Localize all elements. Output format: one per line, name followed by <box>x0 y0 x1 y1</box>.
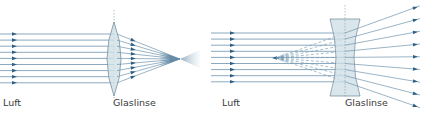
arrow-head-icon <box>230 31 235 35</box>
lens-label: Glaslinse <box>345 97 388 108</box>
medium-label: Luft <box>3 97 21 108</box>
arrow-head-icon <box>413 43 418 47</box>
arrow-head-icon <box>413 31 418 35</box>
arrow-head-icon <box>12 51 17 55</box>
focal-point <box>160 50 200 68</box>
lens-diagram: Luft Glaslinse Luft Glaslinse <box>0 0 422 116</box>
arrow-head-icon <box>12 44 17 48</box>
arrow-head-icon <box>230 50 235 54</box>
arrow-head-icon <box>131 61 136 65</box>
arrow-head-icon <box>230 56 235 60</box>
arrow-head-icon <box>413 55 418 59</box>
arrow-head-icon <box>413 79 418 83</box>
diverging-lens-diagram: Luft Glaslinse <box>211 5 420 108</box>
arrow-head-icon <box>12 75 17 79</box>
refracted-ray <box>345 44 420 51</box>
arrow-head-icon <box>12 38 17 42</box>
arrow-head-icon <box>131 66 136 70</box>
arrow-head-icon <box>230 80 235 84</box>
arrow-head-icon <box>131 57 136 61</box>
incoming-rays <box>0 32 114 84</box>
convex-lens-shape <box>107 22 121 96</box>
arrow-head-icon <box>130 76 135 79</box>
arrow-head-icon <box>12 69 17 73</box>
converging-lens-diagram: Luft Glaslinse <box>0 10 200 108</box>
convex-lens <box>107 10 121 98</box>
arrow-head-icon <box>230 74 235 78</box>
focus-cone-out <box>180 50 200 68</box>
arrow-head-icon <box>130 38 135 42</box>
arrow-head-icon <box>413 91 418 94</box>
arrow-head-icon <box>12 57 17 61</box>
arrow-head-icon <box>131 52 136 56</box>
arrow-head-icon <box>12 63 17 67</box>
arrow-head-icon <box>412 104 417 107</box>
refracted-ray <box>345 64 420 70</box>
arrow-head-icon <box>413 19 418 22</box>
arrow-head-icon <box>230 68 235 72</box>
arrow-head-icon <box>130 43 135 46</box>
virtual-extension <box>276 58 345 76</box>
refracted-ray <box>345 57 420 58</box>
arrow-head-icon <box>130 71 135 74</box>
lens-label: Glaslinse <box>113 97 156 108</box>
focus-cone-in <box>160 51 180 67</box>
arrow-head-icon <box>230 43 235 47</box>
arrow-head-icon <box>12 81 17 85</box>
arrow-head-icon <box>230 37 235 41</box>
arrow-head-icon <box>412 7 417 10</box>
arrow-head-icon <box>131 47 136 51</box>
arrow-head-icon <box>12 32 17 36</box>
arrow-head-icon <box>230 62 235 66</box>
medium-label: Luft <box>222 97 240 108</box>
